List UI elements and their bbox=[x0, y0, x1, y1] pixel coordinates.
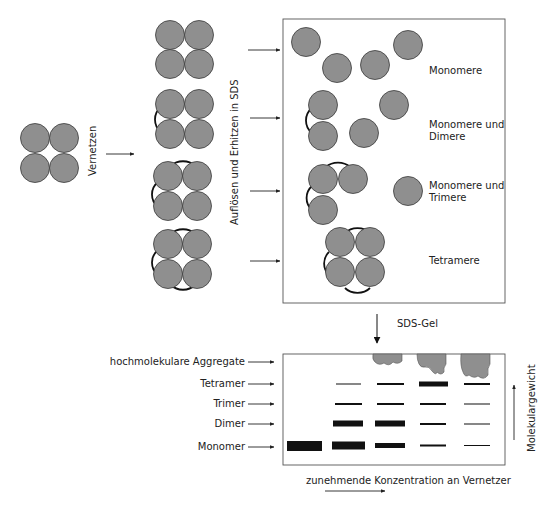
band-monomer-lane-1 bbox=[287, 441, 322, 451]
band-dimer-lane-2 bbox=[333, 421, 363, 427]
result-monomers-dimers bbox=[306, 91, 409, 151]
band-trimer-lane-3 bbox=[377, 403, 404, 405]
band-trimer-lane-2 bbox=[335, 403, 362, 405]
band-monomer-lane-2 bbox=[332, 442, 365, 450]
result-label-2a: Monomere und bbox=[429, 119, 504, 130]
band-trimer-lane-4 bbox=[420, 403, 446, 405]
band-dimer-lane-4 bbox=[420, 423, 446, 425]
band-tetramer-lane-5 bbox=[464, 383, 490, 385]
gel-row-label-aggregates: hochmolekulare Aggregate bbox=[110, 356, 245, 367]
aggregate-lane-3 bbox=[373, 354, 402, 365]
gel-row-label-trimer: Trimer bbox=[212, 398, 245, 409]
band-dimer-lane-3 bbox=[375, 421, 405, 427]
result-label-3b: Trimere bbox=[428, 192, 466, 203]
result-label-1: Monomere bbox=[429, 65, 482, 76]
crosslinking-diagram: Vernetzen Auflösen und Erhitzen in SDS bbox=[0, 0, 553, 506]
band-dimer-lane-5 bbox=[464, 424, 490, 425]
crosslinked-tetramer-none bbox=[156, 21, 214, 79]
band-trimer-lane-5 bbox=[464, 404, 490, 405]
aggregate-lane-5 bbox=[461, 354, 490, 378]
result-monomers-trimers bbox=[307, 163, 423, 225]
native-tetramer bbox=[21, 124, 79, 183]
aggregate-lane-4 bbox=[417, 354, 446, 374]
band-tetramer-lane-2 bbox=[336, 384, 361, 385]
step-crosslink-label: Vernetzen bbox=[87, 126, 98, 176]
molecular-weight-label: Molekulargewicht bbox=[526, 364, 537, 452]
concentration-label: zunehmende Konzentration an Vernetzer bbox=[306, 475, 512, 486]
result-label-4: Tetramere bbox=[428, 255, 480, 266]
band-tetramer-lane-3 bbox=[377, 383, 404, 385]
gel-row-label-monomer: Monomer bbox=[198, 441, 246, 452]
sds-gel-label: SDS-Gel bbox=[397, 318, 438, 329]
band-monomer-lane-4 bbox=[420, 445, 446, 447]
crosslinked-tetramer-two-links bbox=[152, 161, 212, 220]
crosslinked-tetramer-three-links bbox=[152, 229, 212, 289]
step-dissolve-label: Auflösen und Erhitzen in SDS bbox=[229, 79, 240, 225]
band-tetramer-lane-4 bbox=[419, 382, 448, 387]
result-label-2b: Dimere bbox=[429, 131, 465, 142]
gel-row-label-dimer: Dimer bbox=[215, 418, 246, 429]
result-tetramers bbox=[324, 228, 384, 293]
band-monomer-lane-3 bbox=[375, 443, 405, 448]
gel-row-label-tetramer: Tetramer bbox=[199, 378, 246, 389]
crosslinked-tetramer-one-link bbox=[155, 90, 214, 149]
band-monomer-lane-5 bbox=[464, 445, 490, 446]
result-monomers bbox=[292, 28, 423, 83]
result-label-3a: Monomere und bbox=[429, 180, 504, 191]
